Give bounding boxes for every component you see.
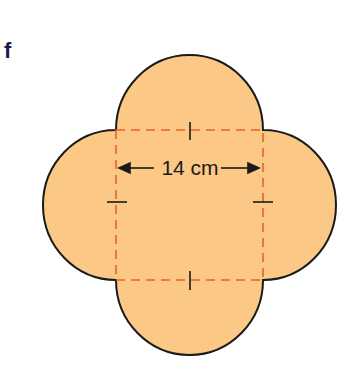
dimension-label: 14 cm — [161, 156, 218, 179]
shape-outline — [43, 55, 336, 355]
semicircle-square-diagram: 14 cm — [0, 0, 349, 386]
